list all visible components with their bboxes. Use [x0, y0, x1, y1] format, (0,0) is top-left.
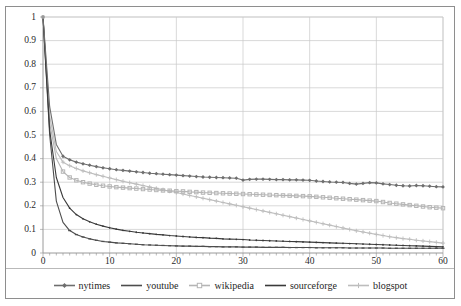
series-marker-nytimes [168, 173, 172, 177]
series-marker-sourceforge [122, 229, 124, 231]
series-marker-sourceforge [255, 239, 257, 241]
series-marker-sourceforge [155, 233, 157, 235]
series-marker-sourceforge [355, 243, 357, 245]
series-marker-nytimes [434, 185, 438, 189]
series-marker-sourceforge [315, 241, 317, 243]
series-marker-sourceforge [95, 223, 97, 225]
series-marker-sourceforge [209, 237, 211, 239]
series-marker-nytimes [101, 166, 105, 170]
x-axis-tick-label: 0 [28, 256, 58, 266]
series-marker-blogspot [281, 213, 285, 217]
series-marker-sourceforge [149, 233, 151, 235]
series-marker-blogspot [94, 173, 98, 177]
series-marker-sourceforge [82, 218, 84, 220]
legend-item-blogspot[interactable]: blogspot [348, 280, 407, 291]
series-marker-sourceforge [142, 232, 144, 234]
y-axis-tick-label: 0.3 [8, 177, 36, 187]
chart-legend: nytimesyoutubewikipediasourceforgeblogsp… [8, 275, 453, 295]
series-marker-sourceforge [409, 245, 411, 247]
series-marker-sourceforge [289, 241, 291, 243]
series-marker-blogspot [394, 236, 398, 240]
series-marker-sourceforge [115, 228, 117, 230]
y-axis-tick-label: 0.2 [8, 200, 36, 210]
series-marker-sourceforge [422, 245, 424, 247]
series-marker-sourceforge [222, 238, 224, 240]
series-marker-nytimes [441, 185, 445, 189]
x-axis-tick-label: 20 [161, 256, 191, 266]
series-marker-blogspot [421, 239, 425, 243]
series-marker-blogspot [254, 207, 258, 211]
series-marker-blogspot [334, 224, 338, 228]
series-marker-blogspot [361, 230, 365, 234]
x-axis-tick-label: 60 [428, 256, 458, 266]
series-marker-blogspot [268, 210, 272, 214]
series-marker-sourceforge [375, 244, 377, 246]
series-marker-blogspot [134, 182, 138, 186]
series-marker-sourceforge [69, 207, 71, 209]
legend-label: nytimes [79, 280, 111, 291]
y-axis-tick-label: 0.4 [8, 153, 36, 163]
legend-swatch-blogspot [348, 281, 369, 290]
series-marker-sourceforge [429, 245, 431, 247]
series-marker-sourceforge [275, 240, 277, 242]
series-marker-sourceforge [182, 236, 184, 238]
series-marker-sourceforge [109, 227, 111, 229]
series-marker-nytimes [341, 181, 345, 185]
series-marker-nytimes [121, 169, 125, 173]
series-marker-sourceforge [162, 234, 164, 236]
series-marker-nytimes [88, 163, 92, 167]
series-marker-blogspot [388, 235, 392, 239]
series-marker-blogspot [68, 164, 72, 168]
y-axis-tick-label: 0.7 [8, 82, 36, 92]
series-marker-nytimes [408, 184, 412, 188]
series-marker-sourceforge [195, 237, 197, 239]
y-axis-tick-label: 0.1 [8, 224, 36, 234]
series-marker-sourceforge [342, 242, 344, 244]
series-marker-nytimes [94, 165, 98, 169]
series-marker-sourceforge [269, 240, 271, 242]
series-marker-blogspot [221, 200, 225, 204]
series-marker-nytimes [421, 184, 425, 188]
legend-swatch-nytimes [54, 281, 75, 290]
series-marker-sourceforge [309, 241, 311, 243]
series-marker-nytimes [308, 178, 312, 182]
series-marker-sourceforge [75, 214, 77, 216]
series-marker-blogspot [274, 212, 278, 216]
series-marker-blogspot [434, 240, 438, 244]
series-marker-nytimes [241, 178, 245, 182]
legend-item-wikipedia[interactable]: wikipedia [189, 280, 253, 291]
series-sourceforge [43, 17, 444, 248]
series-marker-nytimes [294, 178, 298, 182]
series-marker-nytimes [334, 180, 338, 184]
series-marker-blogspot [368, 231, 372, 235]
series-marker-blogspot [414, 238, 418, 242]
series-marker-nytimes [394, 183, 398, 187]
series-marker-blogspot [121, 179, 125, 183]
series-marker-blogspot [101, 174, 105, 178]
series-marker-sourceforge [302, 241, 304, 243]
legend-item-sourceforge[interactable]: sourceforge [265, 280, 337, 291]
series-marker-sourceforge [442, 246, 444, 248]
legend-item-youtube[interactable]: youtube [121, 280, 178, 291]
legend-item-nytimes[interactable]: nytimes [54, 280, 111, 291]
series-marker-nytimes [374, 181, 378, 185]
legend-swatch-youtube [121, 281, 142, 290]
series-marker-nytimes [388, 183, 392, 187]
series-marker-blogspot [314, 220, 318, 224]
series-marker-sourceforge [369, 243, 371, 245]
series-marker-nytimes [188, 174, 192, 178]
series-marker-blogspot [234, 203, 238, 207]
series-marker-nytimes [414, 184, 418, 188]
series-marker-nytimes [194, 175, 198, 179]
series-marker-sourceforge [295, 241, 297, 243]
series-marker-nytimes [254, 177, 258, 181]
series-marker-blogspot [88, 171, 92, 175]
series-marker-blogspot [74, 166, 78, 170]
series-marker-sourceforge [362, 243, 364, 245]
series-marker-blogspot [81, 169, 85, 173]
series-marker-blogspot [261, 209, 265, 213]
y-axis-tick-label: 0.6 [8, 106, 36, 116]
series-marker-blogspot [408, 237, 412, 241]
series-marker-nytimes [181, 174, 185, 178]
x-axis-tick-label: 40 [295, 256, 325, 266]
